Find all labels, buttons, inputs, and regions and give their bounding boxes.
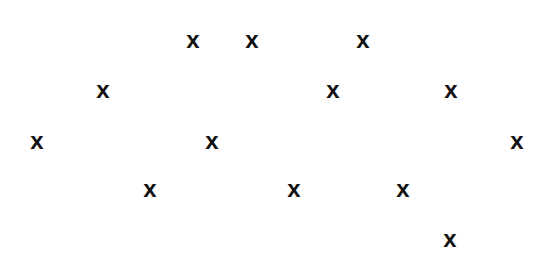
x-mark: x [93, 78, 113, 102]
x-mark: x [393, 177, 413, 201]
x-mark: x [140, 177, 160, 201]
x-mark: x [323, 78, 343, 102]
x-mark: x [284, 177, 304, 201]
x-mark: x [440, 227, 460, 251]
x-mark: x [27, 129, 47, 153]
x-mark: x [353, 28, 373, 52]
mark-canvas: x x x x x x x x x x x x x [0, 0, 550, 262]
x-mark: x [441, 78, 461, 102]
x-mark: x [183, 28, 203, 52]
x-mark: x [242, 28, 262, 52]
x-mark: x [202, 129, 222, 153]
x-mark: x [507, 129, 527, 153]
